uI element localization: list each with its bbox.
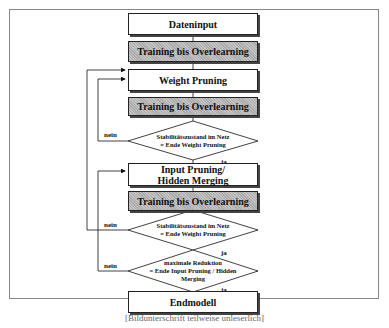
- node-training-2: Training bis Overlearning: [128, 97, 258, 116]
- edge-label-nein-1: nein: [104, 131, 117, 139]
- node-label: Training bis Overlearning: [137, 196, 249, 207]
- node-input-pruning: Input Pruning/ Hidden Merging: [128, 163, 258, 186]
- node-endmodell: Endmodell: [128, 291, 258, 313]
- decision-line: maximale Reduktion: [135, 259, 251, 267]
- decision-line: = Ende Weight Pruning: [140, 230, 246, 238]
- decision-line: Stabilitätszustand im Netz: [140, 133, 246, 141]
- decision-line: = Ende Input Pruning / Hidden: [135, 267, 251, 275]
- node-label: Dateninput: [169, 19, 217, 30]
- node-label: Hidden Merging: [158, 175, 229, 186]
- node-label: Weight Pruning: [159, 75, 227, 86]
- decision-line: = Ende Weight Pruning: [140, 141, 246, 149]
- figure-caption: [Bildunterschrift teilweise unleserlich]: [0, 313, 389, 323]
- node-label: Training bis Overlearning: [137, 46, 249, 57]
- decision-line: Stabilitätszustand im Netz: [140, 222, 246, 230]
- decision-1-label: Stabilitätszustand im Netz = Ende Weight…: [140, 133, 246, 149]
- decision-3-label: maximale Reduktion = Ende Input Pruning …: [135, 259, 251, 283]
- node-weight-pruning: Weight Pruning: [128, 69, 258, 91]
- edge-label-nein-2: nein: [104, 221, 117, 229]
- edge-label-ja-2: ja: [221, 249, 227, 257]
- node-label: Input Pruning/: [161, 164, 225, 175]
- node-training-3: Training bis Overlearning: [128, 191, 258, 211]
- node-training-1: Training bis Overlearning: [128, 41, 258, 62]
- node-dateninput: Dateninput: [128, 13, 258, 35]
- decision-line: Merging: [135, 275, 251, 283]
- node-label: Training bis Overlearning: [137, 101, 249, 112]
- node-label: Endmodell: [170, 297, 217, 308]
- decision-2-label: Stabilitätszustand im Netz = Ende Weight…: [140, 222, 246, 238]
- edge-label-nein-3: nein: [104, 262, 117, 270]
